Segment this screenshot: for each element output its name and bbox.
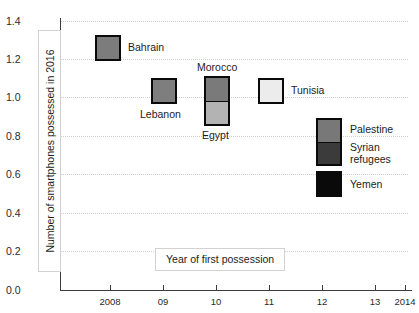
gridline-0-4 — [60, 213, 408, 214]
data-label-tunisia: Tunisia — [291, 84, 324, 96]
data-marker-lebanon — [151, 78, 177, 104]
x-tick-mark-2008 — [110, 285, 111, 291]
gridline-0-6 — [60, 174, 408, 175]
data-segment-morocco — [206, 78, 228, 102]
x-tick-mark-13 — [375, 285, 376, 291]
x-axis-title: Year of first possession — [166, 253, 274, 265]
gridline-0-8 — [60, 136, 408, 137]
x-tick-mark-2014 — [405, 285, 406, 291]
gridline-1-4 — [60, 21, 408, 22]
data-label-egypt: Egypt — [202, 129, 229, 141]
x-axis-line — [60, 290, 412, 291]
x-tick-label-09: 09 — [158, 296, 169, 307]
x-tick-label-2008: 2008 — [99, 296, 120, 307]
x-tick-mark-12 — [322, 285, 323, 291]
x-tick-label-12: 12 — [317, 296, 328, 307]
data-label-syrian-refugees-line2: refugees — [350, 153, 391, 165]
x-tick-mark-09 — [163, 285, 164, 291]
y-tick-label-1-4: 1.4 — [6, 16, 52, 26]
gridline-1-0 — [60, 97, 408, 98]
data-marker-yemen — [316, 171, 342, 197]
data-marker-bahrain — [95, 35, 121, 61]
data-segment-palestine — [318, 120, 340, 143]
data-label-yemen: Yemen — [350, 178, 382, 190]
data-label-palestine: Palestine — [350, 123, 393, 135]
data-marker-morocco-egypt — [204, 76, 230, 126]
data-label-lebanon: Lebanon — [140, 108, 181, 120]
chart-root: 1.4 1.2 1.0 0.8 0.6 0.4 0.2 0.0 2008 09 … — [0, 0, 419, 313]
data-marker-tunisia — [258, 78, 284, 104]
data-label-morocco: Morocco — [197, 61, 237, 73]
data-label-syrian-refugees-line1: Syrian — [350, 141, 380, 153]
data-segment-egypt — [206, 102, 228, 125]
x-tick-label-10: 10 — [211, 296, 222, 307]
y-axis-title-box: Number of smartphones possessed in 2016 — [38, 30, 61, 272]
x-tick-mark-11 — [269, 285, 270, 291]
data-label-bahrain: Bahrain — [128, 41, 164, 53]
x-tick-mark-10 — [216, 285, 217, 291]
x-axis-title-box: Year of first possession — [155, 248, 285, 271]
x-tick-label-2014: 2014 — [394, 296, 415, 307]
x-tick-label-13: 13 — [370, 296, 381, 307]
data-marker-palestine-syrian — [316, 118, 342, 166]
y-axis-title: Number of smartphones possessed in 2016 — [44, 49, 56, 252]
data-segment-syrian-refugees — [318, 143, 340, 165]
x-tick-label-11: 11 — [264, 296, 274, 307]
y-tick-label-0-0: 0.0 — [6, 285, 52, 295]
